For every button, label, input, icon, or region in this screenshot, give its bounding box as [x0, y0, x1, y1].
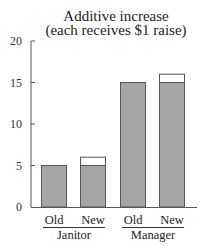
x-label-janitor-old: Old	[45, 213, 65, 227]
y-tick-label-20: 20	[10, 34, 22, 48]
group-label-janitor: Janitor	[57, 228, 92, 242]
y-tick-label-10: 10	[10, 117, 22, 131]
group-label-manager: Manager	[131, 228, 176, 242]
x-label-janitor-new: New	[81, 213, 105, 227]
y-tick-label-5: 5	[16, 159, 22, 173]
y-tick-label-0: 0	[16, 200, 22, 214]
x-label-manager-old: Old	[124, 213, 144, 227]
y-ticks	[31, 41, 35, 166]
bar-manager-new-base	[160, 83, 185, 208]
y-tick-label-15: 15	[10, 76, 22, 90]
bar-janitor-old	[42, 166, 67, 208]
bar-janitor-new-base	[81, 166, 106, 208]
bar-manager-old	[121, 83, 146, 208]
bar-janitor-new-raise	[81, 157, 106, 165]
bar-manager-new-raise	[160, 74, 185, 82]
x-label-manager-new: New	[160, 213, 184, 227]
bar-chart: 20 15 10 5 0 Old New Old New Janitor Man…	[0, 0, 208, 248]
